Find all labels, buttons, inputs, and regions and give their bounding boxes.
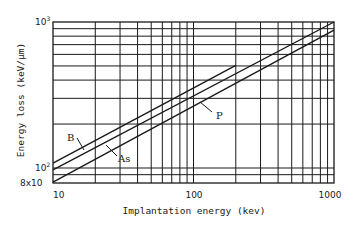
series-label-as: As	[117, 153, 130, 164]
x-tick-10: 10	[53, 190, 65, 200]
as-leader-line	[106, 145, 117, 156]
x-tick-100: 100	[185, 190, 202, 200]
y-tick-1000: 103	[35, 15, 50, 27]
series-label-p: P	[216, 110, 223, 121]
y-axis-label: Energy loss (keV/μm)	[15, 43, 26, 157]
series-label-b: B	[67, 132, 74, 143]
x-axis-label: Implantation energy (kev)	[123, 205, 266, 216]
p-leader-line	[200, 102, 212, 112]
x-tick-1000: 1000	[319, 190, 342, 200]
y-tick-80: 8x10	[20, 178, 43, 188]
y-tick-100: 102	[35, 161, 50, 173]
energy-loss-chart: B As P 103 102 8x10 10 100 1000 Implanta…	[0, 0, 360, 229]
